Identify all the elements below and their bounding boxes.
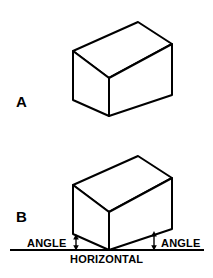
angle-label-right: ANGLE	[161, 237, 201, 249]
box-b	[73, 156, 172, 250]
angle-label-left: ANGLE	[27, 237, 67, 249]
box-a	[73, 22, 172, 116]
horizontal-label: HORIZONTAL	[70, 253, 143, 265]
panel-label-b: B	[16, 208, 27, 225]
panel-label-a: A	[16, 93, 27, 110]
figure-container: A B ANGLE ANGLE HORIZONTAL	[0, 0, 213, 278]
